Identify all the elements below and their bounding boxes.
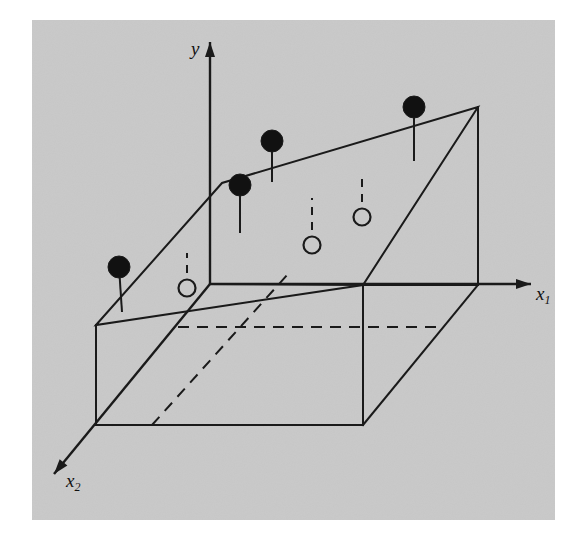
axis-label-x2: x2 <box>66 470 80 495</box>
data-point-filled-p3 <box>261 130 283 152</box>
data-point-open-p7 <box>354 209 371 226</box>
regression-plane-3d-diagram <box>0 0 587 540</box>
data-point-open-p5 <box>179 280 196 297</box>
data-point-filled-p2 <box>229 174 251 196</box>
data-point-filled-p4 <box>403 96 425 118</box>
data-point-filled-p1 <box>108 256 130 278</box>
figure-container: y x1 x2 <box>0 0 587 540</box>
axis-label-x1: x1 <box>536 283 550 308</box>
axis-label-y: y <box>191 38 199 60</box>
data-point-open-p6 <box>304 237 321 254</box>
